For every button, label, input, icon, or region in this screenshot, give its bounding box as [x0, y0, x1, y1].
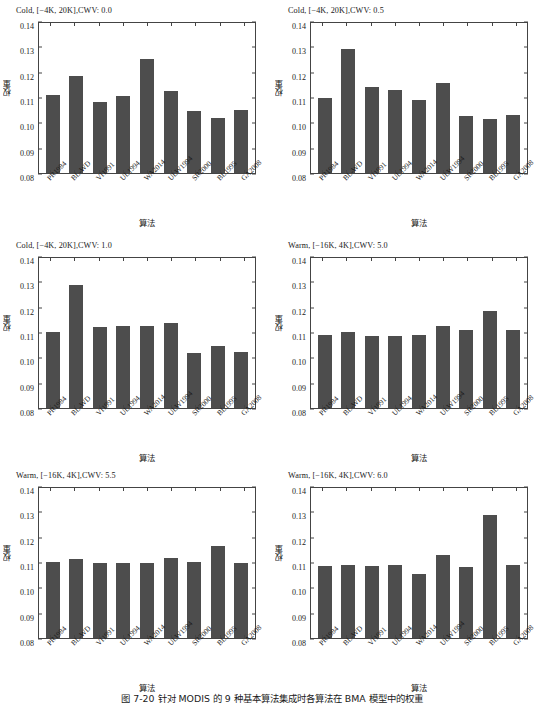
y-tick-label: 0.11	[292, 563, 306, 572]
y-tick-label: 0.13	[292, 512, 306, 521]
bar-series	[39, 488, 255, 638]
y-tick-label: 0.14	[20, 257, 34, 266]
y-tick-label: 0.08	[20, 409, 34, 418]
y-tick-label: 0.13	[20, 282, 34, 291]
bar	[140, 59, 154, 173]
bar	[436, 326, 450, 408]
bar-series	[39, 258, 255, 408]
x-tick-labels: PR1984BL-WDVI1991UL1994WA2014ULW1994SR20…	[310, 176, 528, 220]
y-tick-label: 0.11	[20, 563, 34, 572]
x-tick-labels: PR1984BL-WDVI1991UL1994WA2014ULW1994SR20…	[38, 411, 256, 455]
y-tick-labels: 0.080.090.100.110.120.130.14	[0, 487, 34, 639]
bar	[116, 96, 130, 174]
y-tick-label: 0.10	[292, 588, 306, 597]
panel-title: Cold, [−4K, 20K],CWV: 0.0	[16, 6, 112, 15]
plot-area: 权重0.080.090.100.110.120.130.14PR1984BL-W…	[0, 18, 272, 233]
y-tick-label: 0.09	[292, 383, 306, 392]
bar	[46, 95, 60, 173]
axes-frame	[38, 487, 256, 639]
y-tick-label: 0.08	[20, 174, 34, 183]
axes-frame	[310, 257, 528, 409]
y-tick-label: 0.13	[20, 47, 34, 56]
bar	[365, 87, 379, 173]
bar-series	[39, 23, 255, 173]
bar	[116, 326, 130, 408]
y-tick-label: 0.14	[20, 22, 34, 31]
y-tick-label: 0.14	[292, 487, 306, 496]
bar	[483, 311, 497, 408]
y-tick-label: 0.08	[292, 409, 306, 418]
y-tick-label: 0.10	[20, 358, 34, 367]
bar	[211, 346, 225, 408]
y-tick-label: 0.13	[292, 47, 306, 56]
bar	[341, 332, 355, 409]
y-tick-label: 0.13	[20, 512, 34, 521]
y-tick-label: 0.10	[20, 123, 34, 132]
x-tick-labels: PR1984BL-WDVI1991UL1994WA2014ULW1994SR20…	[38, 641, 256, 685]
bar-series	[311, 488, 527, 638]
y-tick-label: 0.12	[292, 307, 306, 316]
y-tick-label: 0.12	[20, 72, 34, 81]
figure-root: Cold, [−4K, 20K],CWV: 0.0权重0.080.090.100…	[0, 0, 544, 706]
bar	[69, 285, 83, 408]
y-tick-label: 0.12	[20, 537, 34, 546]
bar	[365, 566, 379, 638]
bar	[388, 90, 402, 173]
chart-panel: Cold, [−4K, 20K],CWV: 1.0权重0.080.090.100…	[0, 235, 272, 465]
plot-area: 权重0.080.090.100.110.120.130.14PR1984BL-W…	[272, 483, 544, 698]
axes-frame	[310, 487, 528, 639]
y-tick-label: 0.09	[292, 613, 306, 622]
bar-series	[311, 258, 527, 408]
bar	[164, 91, 178, 173]
y-tick-label: 0.09	[20, 148, 34, 157]
plot-area: 权重0.080.090.100.110.120.130.14PR1984BL-W…	[0, 253, 272, 468]
axes-frame	[38, 22, 256, 174]
y-tick-label: 0.10	[292, 123, 306, 132]
bar	[436, 555, 450, 639]
plot-area: 权重0.080.090.100.110.120.130.14PR1984BL-W…	[0, 483, 272, 698]
bar	[116, 563, 130, 638]
axes-frame	[310, 22, 528, 174]
bar	[483, 515, 497, 639]
axes-frame	[38, 257, 256, 409]
x-axis-label: 算法	[38, 451, 256, 463]
bar	[93, 327, 107, 409]
y-tick-label: 0.14	[292, 22, 306, 31]
bar	[164, 558, 178, 639]
panel-title: Warm, [−16K, 4K],CWV: 5.0	[288, 241, 388, 250]
y-tick-labels: 0.080.090.100.110.120.130.14	[0, 22, 34, 174]
x-tick-labels: PR1984BL-WDVI1991UL1994WA2014ULW1994SR20…	[38, 176, 256, 220]
y-tick-label: 0.11	[20, 98, 34, 107]
bar	[506, 330, 520, 408]
y-tick-label: 0.10	[292, 358, 306, 367]
y-tick-label: 0.09	[20, 613, 34, 622]
x-axis-label: 算法	[38, 216, 256, 228]
y-tick-label: 0.14	[20, 487, 34, 496]
plot-area: 权重0.080.090.100.110.120.130.14PR1984BL-W…	[272, 18, 544, 233]
y-tick-label: 0.09	[292, 148, 306, 157]
y-tick-labels: 0.080.090.100.110.120.130.14	[0, 257, 34, 409]
bar	[412, 574, 426, 638]
y-tick-label: 0.11	[292, 98, 306, 107]
y-tick-label: 0.09	[20, 383, 34, 392]
y-tick-label: 0.12	[20, 307, 34, 316]
y-tick-labels: 0.080.090.100.110.120.130.14	[272, 487, 306, 639]
y-tick-labels: 0.080.090.100.110.120.130.14	[272, 22, 306, 174]
y-tick-label: 0.12	[292, 537, 306, 546]
chart-panel: Warm, [−16K, 4K],CWV: 6.0权重0.080.090.100…	[272, 465, 544, 690]
bar	[164, 323, 178, 408]
bar	[93, 563, 107, 638]
chart-panel: Cold, [−4K, 20K],CWV: 0.5权重0.080.090.100…	[272, 0, 544, 235]
x-axis-label: 算法	[310, 216, 528, 228]
bar	[69, 76, 83, 173]
bar	[140, 326, 154, 408]
plot-area: 权重0.080.090.100.110.120.130.14PR1984BL-W…	[272, 253, 544, 468]
x-axis-label: 算法	[310, 451, 528, 463]
chart-panel: Cold, [−4K, 20K],CWV: 0.0权重0.080.090.100…	[0, 0, 272, 235]
panel-title: Cold, [−4K, 20K],CWV: 1.0	[16, 241, 112, 250]
y-tick-label: 0.13	[292, 282, 306, 291]
chart-panel: Warm, [−16K, 4K],CWV: 5.0权重0.080.090.100…	[272, 235, 544, 465]
bar	[412, 335, 426, 408]
bar	[388, 336, 402, 408]
bar-series	[311, 23, 527, 173]
